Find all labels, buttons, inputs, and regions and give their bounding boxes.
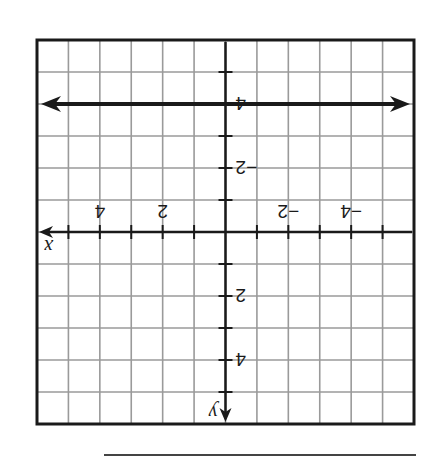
x-tick-label: −2 bbox=[277, 201, 299, 222]
y-tick-label: −2 bbox=[236, 157, 258, 178]
x-tick-label: −4 bbox=[340, 201, 362, 222]
coordinate-plane: −4−224−4−224 x y bbox=[0, 0, 440, 467]
graph-stage: −4−224−4−224 x y bbox=[0, 0, 440, 467]
y-axis-label: y bbox=[209, 401, 220, 424]
y-tick-label: 4 bbox=[235, 349, 246, 370]
x-tick-label: 2 bbox=[157, 201, 168, 222]
axes bbox=[39, 42, 412, 422]
x-tick-label: 4 bbox=[94, 201, 105, 222]
x-axis-label: x bbox=[44, 236, 54, 258]
y-tick-label: 2 bbox=[236, 285, 247, 306]
